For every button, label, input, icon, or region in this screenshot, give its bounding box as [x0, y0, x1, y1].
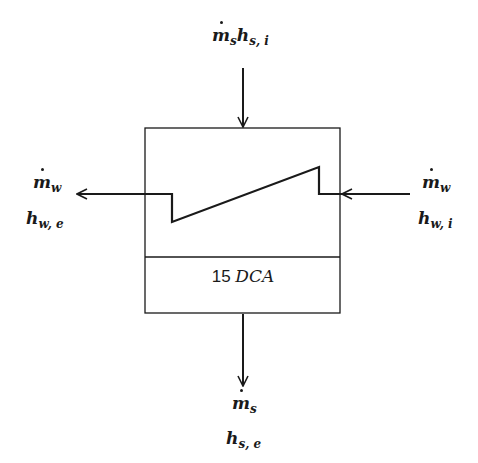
steam-inlet-label: mshs, i [212, 25, 269, 48]
steam-outlet-enthalpy-label: hs, e [226, 428, 261, 451]
water-inlet-mass-label: mw [422, 172, 450, 195]
dca-label: 15 DCA [146, 266, 340, 287]
enthalpy-symbol: h [237, 25, 249, 45]
water-outlet-enthalpy-label: hw, e [26, 208, 64, 231]
water-tube-path [145, 167, 342, 222]
steam-outlet-mass-label: ms [232, 393, 257, 416]
water-inlet-enthalpy-label: hw, i [418, 208, 453, 231]
mass-flow-symbol: m [212, 25, 230, 45]
water-outlet-mass-label: mw [33, 172, 61, 195]
